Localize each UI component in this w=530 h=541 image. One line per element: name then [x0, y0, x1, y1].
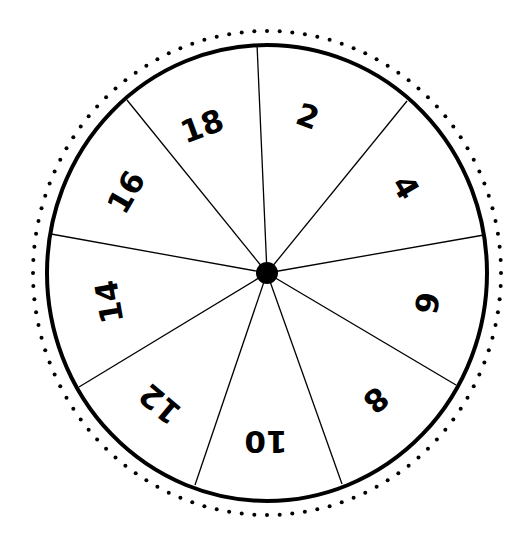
border-dot	[252, 513, 256, 517]
border-dot	[190, 42, 194, 46]
border-dot	[167, 491, 171, 495]
border-dot	[227, 32, 231, 36]
border-dot	[490, 206, 494, 210]
border-dot	[363, 491, 367, 495]
border-dot	[87, 428, 91, 432]
border-dot	[65, 146, 69, 150]
border-dot	[31, 284, 35, 288]
border-dot	[178, 46, 182, 50]
border-dot	[34, 310, 38, 314]
border-dot	[167, 51, 171, 55]
border-dot	[386, 64, 390, 68]
border-dot	[48, 181, 52, 185]
border-dot	[144, 64, 148, 68]
border-dot	[134, 471, 138, 475]
border-dot	[134, 71, 138, 75]
border-dot	[466, 146, 470, 150]
border-dot	[32, 245, 36, 249]
border-dot	[95, 437, 99, 441]
border-dot	[499, 271, 503, 275]
border-dot	[363, 51, 367, 55]
border-dot	[466, 396, 470, 400]
border-dot	[315, 35, 319, 39]
border-dot	[487, 348, 491, 352]
border-dot	[426, 447, 430, 451]
border-dot	[435, 437, 439, 441]
border-dot	[190, 500, 194, 504]
border-dot	[451, 417, 455, 421]
border-dot	[494, 323, 498, 327]
border-dot	[278, 513, 282, 517]
border-dot	[490, 336, 494, 340]
border-dot	[65, 396, 69, 400]
border-dot	[252, 29, 256, 33]
border-dot	[303, 510, 307, 514]
border-dot	[32, 297, 36, 301]
border-dot	[499, 284, 503, 288]
border-dot	[144, 478, 148, 482]
border-dot	[53, 169, 57, 173]
border-dot	[48, 361, 52, 365]
border-dot	[477, 169, 481, 173]
border-dot	[240, 512, 244, 516]
border-dot	[459, 407, 463, 411]
border-dot	[443, 114, 447, 118]
border-dot	[459, 135, 463, 139]
border-dot	[487, 194, 491, 198]
border-dot	[40, 206, 44, 210]
segment-number-label: 10	[244, 424, 287, 460]
border-dot	[407, 78, 411, 82]
border-dot	[31, 258, 35, 262]
border-dot	[265, 513, 269, 517]
border-dot	[482, 181, 486, 185]
border-dot	[34, 232, 38, 236]
border-dot	[240, 30, 244, 34]
border-dot	[202, 504, 206, 508]
border-dot	[79, 417, 83, 421]
border-dot	[352, 46, 356, 50]
border-dot	[290, 30, 294, 34]
border-dot	[123, 78, 127, 82]
border-dot	[472, 158, 476, 162]
border-dot	[498, 297, 502, 301]
border-dot	[496, 310, 500, 314]
border-dot	[43, 348, 47, 352]
border-dot	[340, 500, 344, 504]
border-dot	[482, 361, 486, 365]
border-dot	[95, 105, 99, 109]
border-dot	[396, 71, 400, 75]
border-dot	[443, 428, 447, 432]
border-dot	[386, 478, 390, 482]
border-dot	[58, 384, 62, 388]
border-dot	[472, 384, 476, 388]
border-dot	[114, 455, 118, 459]
border-dot	[407, 464, 411, 468]
border-dot	[36, 323, 40, 327]
border-dot	[53, 373, 57, 377]
border-dot	[290, 512, 294, 516]
border-dot	[227, 510, 231, 514]
border-dot	[178, 496, 182, 500]
number-wheel: 24681012141618	[0, 0, 530, 541]
border-dot	[58, 158, 62, 162]
border-dot	[375, 485, 379, 489]
border-dot	[499, 258, 503, 262]
border-dot	[328, 504, 332, 508]
border-dot	[114, 87, 118, 91]
border-dot	[494, 219, 498, 223]
border-dot	[215, 507, 219, 511]
border-dot	[71, 407, 75, 411]
border-dot	[416, 87, 420, 91]
border-dot	[496, 232, 500, 236]
border-dot	[79, 125, 83, 129]
border-dot	[426, 95, 430, 99]
border-dot	[104, 95, 108, 99]
border-dot	[202, 38, 206, 42]
border-dot	[155, 485, 159, 489]
border-dot	[36, 219, 40, 223]
border-dot	[87, 114, 91, 118]
border-dot	[328, 38, 332, 42]
border-dot	[215, 35, 219, 39]
border-dot	[352, 496, 356, 500]
border-dot	[155, 57, 159, 61]
